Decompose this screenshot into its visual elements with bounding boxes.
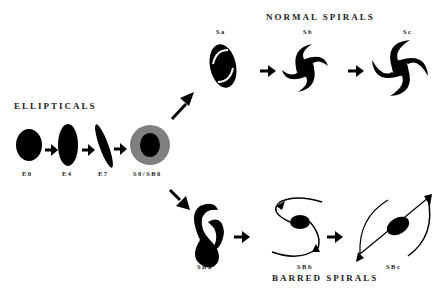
galaxy-e0-shape — [16, 129, 42, 161]
label-e0: E0 — [22, 170, 33, 177]
arrow-sb-sc — [348, 65, 364, 77]
ellipticals-heading: ELLIPTICALS — [14, 101, 97, 111]
arrow-e0-e4 — [45, 144, 58, 156]
galaxy-s0-core — [140, 133, 160, 157]
tuning-fork-diagram — [0, 0, 448, 291]
label-e4: E4 — [62, 170, 73, 177]
label-e7: E7 — [98, 170, 109, 177]
galaxy-sb-shape — [282, 44, 328, 92]
galaxy-sbb-shape — [272, 198, 322, 256]
galaxy-sba-shape — [194, 204, 224, 268]
arrow-sba-sbb — [234, 231, 250, 243]
barred-spirals-heading: BARRED SPIRALS — [272, 273, 378, 283]
galaxy-e7-shape — [92, 123, 116, 169]
galaxy-sbc-shape — [356, 194, 432, 262]
galaxy-sa-shape — [206, 42, 241, 90]
arrow-to-barred-spirals — [170, 190, 190, 210]
label-sb: Sb — [303, 28, 313, 35]
arrow-to-normal-spirals — [172, 92, 194, 119]
galaxy-sc-shape — [372, 40, 428, 96]
arrow-sbb-sbc — [327, 231, 343, 243]
arrow-sa-sb — [260, 65, 276, 77]
label-s0-sb0: S0/SB0 — [133, 170, 162, 177]
label-sc: Sc — [403, 28, 413, 35]
label-sbc: SBc — [386, 263, 401, 270]
normal-spirals-heading: NORMAL SPIRALS — [266, 12, 375, 22]
label-sa: Sa — [216, 28, 226, 35]
arrow-e7-s0 — [114, 143, 127, 155]
arrow-e4-e7 — [82, 144, 95, 156]
galaxy-e4-shape — [58, 124, 78, 166]
label-sbb: SBb — [297, 263, 313, 270]
label-sba: SBa — [197, 263, 213, 270]
